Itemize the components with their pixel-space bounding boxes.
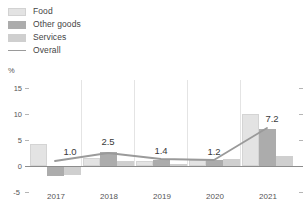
y-axis-tick-10: 10 bbox=[4, 110, 22, 119]
value-label-2021: 7.2 bbox=[259, 113, 285, 124]
x-axis-tick-2019: 2019 bbox=[146, 192, 178, 201]
y-axis-tickmark-minus5 bbox=[25, 192, 29, 193]
chart-container: Food Other goods Services Overall % 15 1… bbox=[0, 0, 308, 210]
bar-2021-other-goods bbox=[259, 129, 276, 166]
overall-line-overlay bbox=[0, 0, 308, 210]
x-axis-tick-2020: 2020 bbox=[199, 192, 231, 201]
bar-2017-other-goods bbox=[47, 167, 64, 176]
y-axis-tickmark-5 bbox=[25, 140, 29, 141]
bar-2021-food bbox=[242, 114, 259, 166]
y-axis-unit-label: % bbox=[8, 66, 15, 75]
year-separator-2020 bbox=[187, 80, 188, 166]
bar-2018-food bbox=[83, 158, 100, 166]
value-label-2018: 2.5 bbox=[95, 136, 121, 147]
zero-baseline bbox=[25, 166, 303, 167]
x-axis-tick-2021: 2021 bbox=[252, 192, 284, 201]
y-axis-right-tickmark-15 bbox=[299, 88, 303, 89]
bar-2020-services bbox=[223, 159, 240, 166]
year-separator-2019 bbox=[134, 80, 135, 166]
y-axis-tick-15: 15 bbox=[4, 84, 22, 93]
bar-2017-food bbox=[30, 144, 47, 166]
y-axis-right-tickmark-10 bbox=[299, 114, 303, 115]
y-axis-tickmark-10 bbox=[25, 114, 29, 115]
y-axis-tick-5: 5 bbox=[4, 136, 22, 145]
value-label-2017: 1.0 bbox=[57, 146, 83, 157]
y-axis-tick-minus5: -5 bbox=[2, 188, 20, 197]
year-separator-2021 bbox=[240, 80, 241, 166]
bar-2017-services bbox=[64, 167, 81, 175]
value-label-2020: 1.2 bbox=[201, 146, 227, 157]
plot-area: % 15 10 5 0 -5 bbox=[0, 0, 308, 210]
y-axis-right-tickmark-5 bbox=[299, 140, 303, 141]
y-axis-tickmark-15 bbox=[25, 88, 29, 89]
bar-2021-services bbox=[276, 156, 293, 166]
bar-2018-other-goods bbox=[100, 152, 117, 166]
x-axis-tick-2018: 2018 bbox=[93, 192, 125, 201]
y-axis-tick-0: 0 bbox=[4, 162, 22, 171]
y-axis-right-tickmark-minus5 bbox=[299, 192, 303, 193]
value-label-2019: 1.4 bbox=[148, 145, 174, 156]
x-axis-tick-2017: 2017 bbox=[40, 192, 72, 201]
